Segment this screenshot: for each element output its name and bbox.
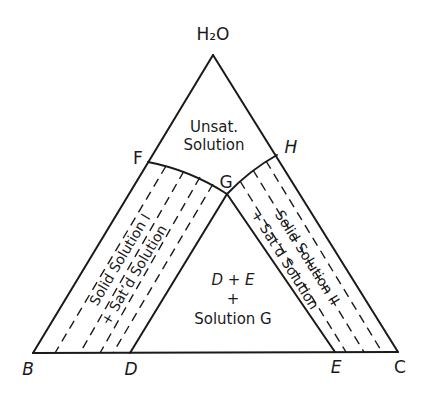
region-label-center-line2: +: [227, 290, 240, 308]
edge-base: [33, 352, 398, 353]
curve-f-g: [148, 162, 227, 194]
right-band-label: Solid Solution II + Sat’d Solution: [248, 196, 343, 318]
region-label-center-line1: D + E: [211, 271, 255, 289]
point-label-e: E: [331, 357, 342, 377]
point-label-g: G: [219, 172, 232, 192]
outer-triangle: [33, 55, 398, 353]
region-label-center-line3: Solution G: [194, 310, 272, 328]
point-label-b: B: [22, 359, 34, 379]
ternary-phase-diagram: H₂O B D E C F G H Unsat. Solution D + E …: [0, 0, 433, 401]
point-label-f: F: [133, 148, 143, 168]
apex-label-h2o: H₂O: [197, 24, 230, 44]
region-label-unsat-line2: Solution: [183, 136, 244, 154]
point-label-c: C: [394, 357, 406, 377]
region-label-unsat-line1: Unsat.: [190, 118, 238, 136]
point-label-d: D: [124, 359, 137, 379]
point-label-h: H: [285, 137, 298, 157]
curve-g-h: [227, 155, 277, 194]
